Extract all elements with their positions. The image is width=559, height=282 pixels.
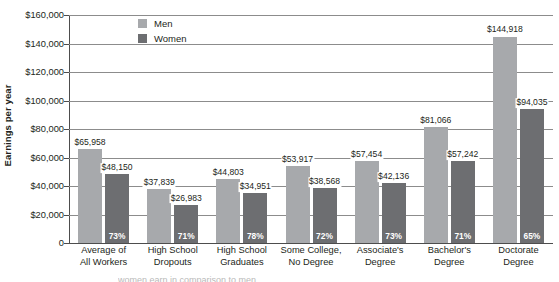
bar-men [493, 37, 517, 244]
bar-men [355, 161, 379, 243]
x-axis-label-line: Graduates [217, 257, 267, 269]
y-axis-title: Earnings per year [0, 0, 16, 250]
bars-layer: $65,958$37,839$44,803$53,917$57,454$81,0… [69, 15, 553, 243]
bar-chart: Earnings per year 0$20,000$40,000$60,000… [0, 0, 559, 282]
legend-item-men: Men [138, 16, 187, 30]
bar-value-label: $65,958 [74, 138, 107, 148]
x-axis-label-line: All Workers [80, 257, 127, 269]
bar-value-label: $38,568 [308, 177, 341, 187]
y-tick-mark [64, 101, 69, 102]
bar-percent-label: 71% [178, 232, 195, 240]
bar-men [216, 179, 240, 243]
y-tick-label: $120,000 [25, 67, 64, 77]
y-tick-label: $40,000 [30, 181, 64, 191]
x-axis-label-line: No Degree [281, 257, 342, 269]
y-tick-label: $20,000 [30, 210, 64, 220]
bar-value-label: $42,136 [377, 172, 410, 182]
bar-value-label: $94,035 [515, 98, 548, 108]
x-axis-label-line: Average of [80, 245, 127, 257]
x-axis-label-line: Degree [428, 257, 471, 269]
y-tick-mark [64, 15, 69, 16]
x-axis-label-line: High School [148, 245, 198, 257]
x-axis-label: High SchoolDropouts [148, 245, 198, 268]
y-axis-title-text: Earnings per year [3, 84, 14, 166]
x-axis-label: Bachelor'sDegree [428, 245, 471, 268]
bar-value-label: $26,983 [170, 194, 203, 204]
y-axis-tick-labels: 0$20,000$40,000$60,000$80,000$100,000$12… [16, 0, 67, 250]
y-tick-label: $80,000 [30, 124, 64, 134]
legend-item-women: Women [138, 31, 187, 45]
x-axis-label-line: Doctorate [498, 245, 538, 257]
x-axis-label-line: Degree [498, 257, 538, 269]
bar-men [286, 166, 310, 243]
plot-area: $65,958$37,839$44,803$53,917$57,454$81,0… [69, 15, 553, 243]
legend-label-men: Men [154, 18, 172, 29]
bar-percent-label: 73% [109, 232, 126, 240]
bar-percent-label: 72% [316, 232, 333, 240]
bottom-caption: women earn in comparison to men [118, 275, 558, 282]
bar-men [424, 127, 448, 243]
bar-value-label: $34,951 [239, 182, 272, 192]
bar-percent-label: 71% [454, 232, 471, 240]
legend-label-women: Women [154, 33, 187, 44]
legend-swatch-women-icon [138, 34, 147, 43]
y-tick-mark [64, 215, 69, 216]
bar-women [520, 109, 544, 243]
y-tick-mark [64, 158, 69, 159]
bar-percent-label: 73% [385, 232, 402, 240]
legend: Men Women [138, 16, 187, 46]
bar-value-label: $81,066 [419, 117, 452, 127]
y-tick-mark [64, 44, 69, 45]
bar-percent-label: 65% [524, 232, 541, 240]
bar-value-label: $48,150 [101, 164, 134, 174]
bar-men [78, 149, 102, 243]
y-tick-label: $160,000 [25, 10, 64, 20]
bar-men [147, 189, 171, 243]
bar-value-label: $53,917 [281, 155, 314, 165]
x-axis-label: Average ofAll Workers [80, 245, 127, 268]
y-tick-label: $100,000 [25, 96, 64, 106]
y-tick-mark [64, 186, 69, 187]
bar-value-label: $57,242 [446, 151, 479, 161]
x-axis-label: Some College,No Degree [281, 245, 342, 268]
x-axis-label: Associate'sDegree [357, 245, 404, 268]
x-axis-label: High SchoolGraduates [217, 245, 267, 268]
x-axis-label-line: Degree [357, 257, 404, 269]
bar-value-label: $144,918 [486, 26, 524, 36]
x-axis-label-line: Some College, [281, 245, 342, 257]
x-axis-label-line: Bachelor's [428, 245, 471, 257]
x-axis-label: DoctorateDegree [498, 245, 538, 268]
bar-value-label: $57,454 [350, 150, 383, 160]
bar-value-label: $37,839 [143, 178, 176, 188]
y-tick-label: $60,000 [30, 153, 64, 163]
x-axis-category-labels: Average ofAll WorkersHigh SchoolDropouts… [69, 245, 553, 275]
y-tick-label: $140,000 [25, 39, 64, 49]
y-tick-mark [64, 243, 69, 244]
y-tick-mark [64, 129, 69, 130]
legend-swatch-men-icon [138, 19, 147, 28]
x-axis-label-line: Dropouts [148, 257, 198, 269]
x-axis-label-line: Associate's [357, 245, 404, 257]
bar-value-label: $44,803 [212, 168, 245, 178]
y-tick-mark [64, 72, 69, 73]
bar-percent-label: 78% [247, 232, 264, 240]
x-axis-label-line: High School [217, 245, 267, 257]
